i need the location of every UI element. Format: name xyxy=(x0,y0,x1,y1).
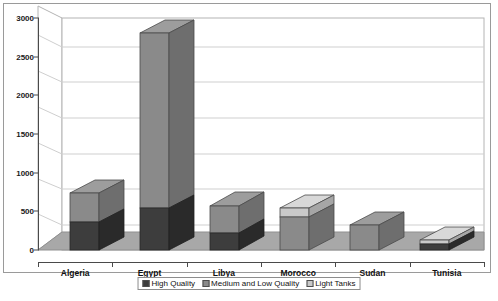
y-tick-mark xyxy=(34,211,39,212)
y-tick-mark xyxy=(34,56,39,57)
x-axis-label-sudan: Sudan xyxy=(360,268,386,278)
sudan-medium-front xyxy=(350,225,379,250)
tunisia-light-front xyxy=(420,240,449,244)
x-tick-mark xyxy=(335,262,336,267)
legend-item-medium-low-quality[interactable]: Medium and Low Quality xyxy=(202,279,299,288)
x-tick-mark xyxy=(187,262,188,267)
tunisia-high-front xyxy=(420,244,449,250)
y-tick-mark xyxy=(34,172,39,173)
bar-group-tunisia[interactable] xyxy=(420,227,474,250)
bar-group-libya[interactable] xyxy=(210,192,264,250)
algeria-high-front xyxy=(70,222,99,250)
egypt-medium-front xyxy=(140,33,169,208)
x-tick-mark xyxy=(38,262,39,267)
algeria-medium-front xyxy=(70,193,99,222)
legend-swatch-high-quality xyxy=(143,280,150,287)
morocco-light-front xyxy=(280,208,309,217)
bar-group-egypt[interactable] xyxy=(140,20,194,250)
y-tick-mark xyxy=(34,250,39,251)
chart-container: 050010001500200025003000 AlgeriaEgyptLib… xyxy=(0,0,498,301)
bar-group-algeria[interactable] xyxy=(70,180,124,250)
y-tick-mark xyxy=(34,134,39,135)
libya-medium-front xyxy=(210,206,239,233)
legend-label-light-tanks: Light Tanks xyxy=(315,279,355,288)
x-tick-mark xyxy=(410,262,411,267)
y-tick-label: 500 xyxy=(21,207,34,216)
bar-group-morocco[interactable] xyxy=(280,195,334,250)
bar-group-sudan[interactable] xyxy=(350,212,404,250)
x-axis-label-tunisia: Tunisia xyxy=(432,268,461,278)
x-tick-mark xyxy=(261,262,262,267)
x-tick-mark xyxy=(484,262,485,267)
x-axis-label-algeria: Algeria xyxy=(61,268,90,278)
chart-legend: High Quality Medium and Low Quality Ligh… xyxy=(138,277,361,290)
y-tick-mark xyxy=(34,18,39,19)
y-tick-mark xyxy=(34,95,39,96)
x-tick-mark xyxy=(112,262,113,267)
legend-label-medium-low-quality: Medium and Low Quality xyxy=(211,279,299,288)
legend-swatch-light-tanks xyxy=(306,280,313,287)
libya-high-front xyxy=(210,233,239,250)
legend-swatch-medium-low-quality xyxy=(202,280,209,287)
legend-item-light-tanks[interactable]: Light Tanks xyxy=(306,279,355,288)
bars-layer xyxy=(0,0,498,301)
egypt-medium-side xyxy=(169,20,194,208)
y-tick-label: 3000 xyxy=(16,14,34,23)
legend-item-high-quality[interactable]: High Quality xyxy=(143,279,196,288)
egypt-high-front xyxy=(140,208,169,250)
morocco-medium-front xyxy=(280,217,309,250)
y-tick-label: 1000 xyxy=(16,168,34,177)
y-tick-label: 2000 xyxy=(16,91,34,100)
y-tick-label: 2500 xyxy=(16,52,34,61)
legend-label-high-quality: High Quality xyxy=(152,279,196,288)
y-tick-label: 1500 xyxy=(16,130,34,139)
